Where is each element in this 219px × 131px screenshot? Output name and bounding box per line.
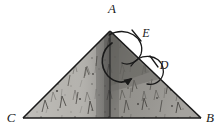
vertex-label-A: A (107, 1, 116, 16)
angle-label-D: D (159, 58, 169, 72)
figure-canvas: A C B E D (0, 0, 219, 131)
angle-label-E: E (141, 26, 150, 40)
geometry-diagram: A C B E D (0, 0, 219, 131)
vertex-label-C: C (7, 110, 16, 125)
vertex-label-B: B (206, 110, 214, 125)
